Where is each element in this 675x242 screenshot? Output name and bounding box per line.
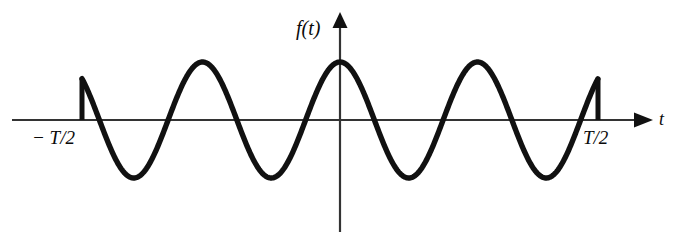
x-axis-label: t <box>659 110 664 128</box>
y-axis-arrowhead-icon <box>333 12 348 28</box>
tick-label-negative-half-period: − T/2 <box>32 128 75 147</box>
x-axis-arrowhead-icon <box>634 113 653 128</box>
y-axis-label: f(t) <box>296 18 320 38</box>
waveform-figure: f(t) t − T/2 T/2 <box>0 0 675 242</box>
y-axis <box>333 12 348 232</box>
waveform-canvas <box>0 0 675 242</box>
tick-label-positive-half-period: T/2 <box>583 128 608 147</box>
x-axis <box>12 113 653 128</box>
